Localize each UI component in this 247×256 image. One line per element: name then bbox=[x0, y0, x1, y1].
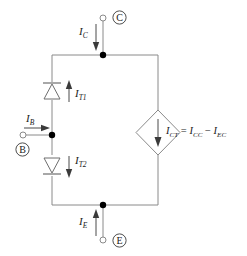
emitter-current-arrow bbox=[93, 209, 99, 236]
collector-lead-group bbox=[100, 15, 106, 58]
base-terminal-letter-circle bbox=[15, 142, 30, 157]
diode-lower-current-arrow bbox=[66, 156, 72, 178]
collector-terminal-letter-circle bbox=[112, 10, 127, 25]
base-lead-group bbox=[20, 132, 55, 138]
diode-lower-current-label: IT2 bbox=[75, 155, 87, 169]
collector-current-label: IC bbox=[79, 26, 88, 40]
emitter-terminal-letter-circle bbox=[112, 233, 127, 248]
collector-junction-dot bbox=[100, 52, 106, 58]
base-junction-dot bbox=[49, 132, 55, 138]
diode-upper-symbol[interactable] bbox=[43, 83, 61, 99]
base-terminal-node[interactable] bbox=[20, 132, 26, 138]
emitter-current-label: IE bbox=[79, 216, 87, 230]
diode-upper-current-label: IT1 bbox=[75, 88, 87, 102]
emitter-terminal-node[interactable] bbox=[100, 237, 106, 243]
diode-upper-current-arrow bbox=[66, 80, 72, 102]
circuit-diagram-canvas: C IC B IB E IE IT1 IT2 ICT = ICC − IEC bbox=[0, 0, 247, 256]
current-source-equation: ICT = ICC − IEC bbox=[166, 126, 226, 139]
emitter-lead-group bbox=[100, 202, 106, 243]
diode-lower-symbol[interactable] bbox=[43, 158, 61, 174]
emitter-junction-dot bbox=[100, 202, 106, 208]
base-current-label: IB bbox=[26, 113, 34, 127]
collector-terminal-node[interactable] bbox=[100, 15, 106, 21]
collector-current-arrow bbox=[93, 24, 99, 51]
